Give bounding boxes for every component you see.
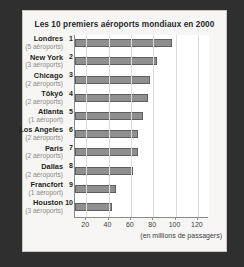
plot-area	[74, 35, 209, 217]
image-frame: Les 10 premiers aéroports mondiaux en 20…	[0, 0, 244, 267]
bar-houston	[75, 203, 112, 211]
x-axis-tick	[197, 217, 198, 220]
category-label-group: Chicago3(2 aéroports)	[23, 71, 74, 89]
category-label-group: Londres1(5 aéroports)	[23, 35, 74, 53]
x-axis-tick	[85, 217, 86, 220]
bar-row	[75, 35, 209, 53]
category-label-airports: (2 aéroports)	[25, 134, 63, 141]
x-axis-tick-label: 120	[185, 221, 209, 228]
gridline	[153, 35, 154, 217]
category-label-airports: (3 aéroports)	[25, 207, 63, 214]
category-label-rank: 8	[69, 162, 73, 169]
category-label-airports: (2 aéroports)	[25, 80, 63, 87]
bar-dallas	[75, 167, 133, 175]
bar-londres	[75, 39, 172, 47]
category-label-airports: (2 aéroports)	[25, 171, 63, 178]
category-label-city: Tōkyō	[41, 89, 63, 98]
bar-row	[75, 126, 209, 144]
chart-card: Les 10 premiers aéroports mondiaux en 20…	[23, 11, 226, 251]
category-label-airports: (1 aéroport)	[29, 116, 63, 123]
x-axis-caption: (en millions de passagers)	[23, 232, 222, 239]
x-axis-tick-label: 40	[96, 221, 120, 228]
category-axis-labels: Londres1(5 aéroports)New York2(3 aéropor…	[23, 35, 74, 217]
bar-new-york	[75, 57, 157, 65]
category-label-airports: (2 aéroports)	[25, 98, 63, 105]
category-label-group: Dallas8(2 aéroports)	[23, 162, 74, 180]
x-axis-tick	[175, 217, 176, 220]
bar-row	[75, 144, 209, 162]
category-label-city: New York	[30, 53, 63, 62]
category-label-rank: 9	[69, 181, 73, 188]
category-label-rank: 5	[69, 108, 73, 115]
category-label-airports: (1 aéroport)	[29, 189, 63, 196]
category-label-city: Francfort	[31, 180, 63, 189]
category-label-city: Londres	[34, 34, 63, 43]
category-label-rank: 7	[69, 144, 73, 151]
gridline	[176, 35, 177, 217]
category-label-city: Atlanta	[38, 107, 63, 116]
gridline	[131, 35, 132, 217]
bar-row	[75, 53, 209, 71]
bar-francfort	[75, 185, 116, 193]
x-axis-tick-label: 80	[140, 221, 164, 228]
bar-row	[75, 108, 209, 126]
chart-title: Les 10 premiers aéroports mondiaux en 20…	[23, 20, 226, 29]
category-label-city: Houston	[33, 198, 63, 207]
x-axis-tick-label: 60	[118, 221, 142, 228]
bar-row	[75, 71, 209, 89]
x-axis-tick	[130, 217, 131, 220]
category-label-group: Atlanta5(1 aéroport)	[23, 108, 74, 126]
category-label-rank: 10	[65, 199, 73, 206]
gridline	[86, 35, 87, 217]
category-label-rank: 6	[69, 126, 73, 133]
category-label-airports: (3 aéroports)	[25, 61, 63, 68]
x-axis-tick	[152, 217, 153, 220]
x-axis-tick-label: 20	[73, 221, 97, 228]
category-label-group: Tōkyō4(2 aéroports)	[23, 90, 74, 108]
x-axis-line	[74, 217, 208, 218]
category-label-airports: (2 aéroports)	[25, 152, 63, 159]
bar-row	[75, 199, 209, 217]
x-axis-tick	[108, 217, 109, 220]
bar-row	[75, 181, 209, 199]
category-label-rank: 3	[69, 71, 73, 78]
category-label-rank: 4	[69, 90, 73, 97]
x-axis-tick-label: 100	[163, 221, 187, 228]
category-label-city: Dallas	[41, 162, 63, 171]
gridline	[109, 35, 110, 217]
bar-los-angeles	[75, 130, 138, 138]
gridline	[198, 35, 199, 217]
category-label-city: Chicago	[34, 71, 63, 80]
category-label-group: Francfort9(1 aéroport)	[23, 181, 74, 199]
bar-paris	[75, 148, 138, 156]
bar-row	[75, 90, 209, 108]
category-label-rank: 2	[69, 53, 73, 60]
bar-row	[75, 162, 209, 180]
category-label-group: New York2(3 aéroports)	[23, 53, 74, 71]
category-label-rank: 1	[69, 35, 73, 42]
bar-rows	[75, 35, 209, 217]
category-label-group: Houston10(3 aéroports)	[23, 199, 74, 217]
category-label-group: Paris7(2 aéroports)	[23, 144, 74, 162]
category-label-airports: (5 aéroports)	[25, 43, 63, 50]
category-label-group: Los Angeles6(2 aéroports)	[23, 126, 74, 144]
category-label-city: Los Angeles	[19, 125, 63, 134]
category-label-city: Paris	[45, 144, 63, 153]
